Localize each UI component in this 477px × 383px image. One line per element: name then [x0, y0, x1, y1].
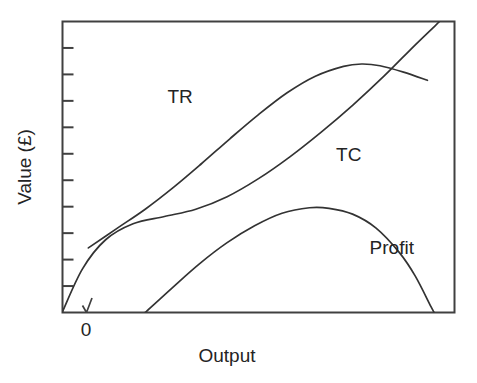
- series-curve-profit: [145, 207, 434, 312]
- series-label-tr: TR: [167, 86, 192, 107]
- series-curve-tc: [63, 22, 440, 312]
- series-label-profit: Profit: [370, 237, 415, 258]
- series-curves: [63, 22, 440, 313]
- series-label-tc: TC: [336, 144, 361, 165]
- series-curve-tr: [88, 64, 427, 248]
- origin-arrow-icon: [83, 298, 93, 313]
- chart-canvas: Value (£) Output 0 TR TC Profit: [0, 0, 477, 383]
- x-axis-label: Output: [198, 345, 256, 366]
- y-axis-ticks: [63, 48, 74, 286]
- origin-label: 0: [81, 319, 92, 340]
- y-axis-label: Value (£): [14, 129, 35, 205]
- chart-figure: Value (£) Output 0 TR TC Profit: [0, 0, 477, 383]
